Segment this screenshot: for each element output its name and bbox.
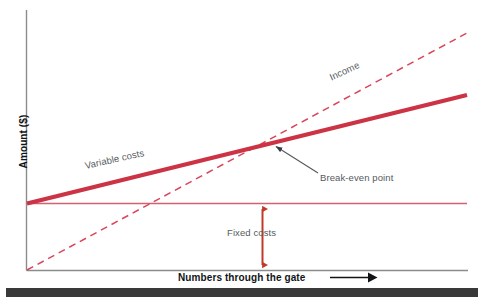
bottom-bar bbox=[6, 288, 478, 297]
break-even-chart-figure: Amount ($) Numbers through the gate Inco… bbox=[0, 0, 478, 297]
x-axis-label: Numbers through the gate bbox=[178, 272, 305, 283]
x-axis-direction-arrow-head bbox=[368, 272, 378, 282]
variable-costs-line bbox=[27, 95, 467, 204]
y-axis-label: Amount ($) bbox=[18, 102, 29, 182]
break-even-point-label: Break-even point bbox=[320, 172, 393, 183]
break-even-leader-line bbox=[276, 147, 318, 174]
chart-plot-area bbox=[0, 0, 478, 297]
fixed-costs-label: Fixed costs bbox=[227, 227, 276, 238]
